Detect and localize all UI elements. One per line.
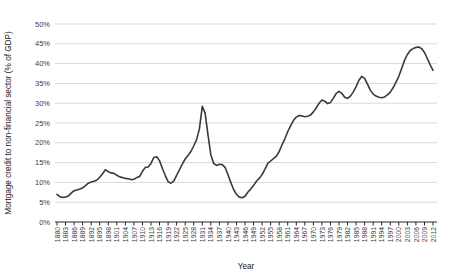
x-tick-label: 1907 (131, 227, 138, 242)
y-tick-label: 45% (35, 39, 50, 48)
x-tick-label: 1958 (276, 227, 283, 242)
x-tick-label: 1943 (233, 227, 240, 242)
tick-labels: 0%5%10%15%20%25%30%35%40%45%50%188018831… (35, 20, 437, 243)
x-tick-label: 1940 (225, 227, 232, 242)
y-tick-label: 40% (35, 59, 50, 68)
gridlines (55, 24, 437, 202)
y-tick-label: 0% (39, 218, 50, 227)
y-tick-label: 50% (35, 20, 50, 29)
y-axis-title: Mortgage credit to non-financial sector … (4, 31, 13, 215)
y-tick-label: 25% (35, 119, 50, 128)
x-tick-label: 1922 (173, 227, 180, 242)
x-tick-label: 1880 (54, 227, 61, 242)
x-tick-label: 2006 (413, 227, 420, 242)
x-tick-label: 2012 (430, 227, 437, 242)
x-tick-label: 1913 (148, 227, 155, 242)
x-tick-label: 1955 (267, 227, 274, 242)
mortgage-credit-line-chart: 0%5%10%15%20%25%30%35%40%45%50%188018831… (0, 0, 451, 276)
axes (55, 222, 437, 226)
data-series (57, 47, 433, 198)
x-tick-label: 1988 (361, 227, 368, 242)
y-tick-label: 10% (35, 178, 50, 187)
chart-figure: 0%5%10%15%20%25%30%35%40%45%50%188018831… (0, 0, 451, 276)
x-tick-label: 1892 (88, 227, 95, 242)
y-tick-label: 30% (35, 99, 50, 108)
x-tick-label: 1895 (96, 227, 103, 242)
x-tick-label: 1994 (378, 227, 385, 242)
x-tick-label: 2003 (404, 227, 411, 242)
x-tick-label: 1970 (310, 227, 317, 242)
x-tick-label: 1976 (327, 227, 334, 242)
x-tick-label: 1889 (79, 227, 86, 242)
x-tick-label: 1967 (301, 227, 308, 242)
x-tick-label: 1961 (284, 227, 291, 242)
x-tick-label: 1973 (319, 227, 326, 242)
x-tick-label: 1937 (216, 227, 223, 242)
x-tick-label: 2009 (421, 227, 428, 242)
x-tick-label: 1979 (336, 227, 343, 242)
y-tick-label: 15% (35, 158, 50, 167)
x-axis-title: Year (238, 262, 255, 271)
x-tick-label: 1919 (165, 227, 172, 242)
x-tick-label: 1904 (122, 227, 129, 242)
x-tick-label: 1964 (293, 227, 300, 242)
x-tick-label: 1946 (242, 227, 249, 242)
x-tick-label: 1901 (113, 227, 120, 242)
x-tick-label: 1982 (344, 227, 351, 242)
mortgage-credit-series-line (57, 47, 433, 198)
x-tick-label: 1952 (259, 227, 266, 242)
x-tick-label: 2000 (395, 227, 402, 242)
x-tick-label: 1898 (105, 227, 112, 242)
x-tick-label: 1883 (62, 227, 69, 242)
x-tick-label: 1925 (182, 227, 189, 242)
x-tick-label: 1910 (139, 227, 146, 242)
x-tick-label: 1928 (190, 227, 197, 242)
x-tick-label: 1991 (370, 227, 377, 242)
y-tick-label: 5% (39, 198, 50, 207)
x-tick-label: 1934 (207, 227, 214, 242)
x-tick-label: 1997 (387, 227, 394, 242)
x-tick-label: 1931 (199, 227, 206, 242)
x-tick-label: 1886 (71, 227, 78, 242)
y-tick-label: 35% (35, 79, 50, 88)
x-tick-label: 1949 (250, 227, 257, 242)
y-tick-label: 20% (35, 138, 50, 147)
x-tick-label: 1916 (156, 227, 163, 242)
x-tick-label: 1985 (353, 227, 360, 242)
